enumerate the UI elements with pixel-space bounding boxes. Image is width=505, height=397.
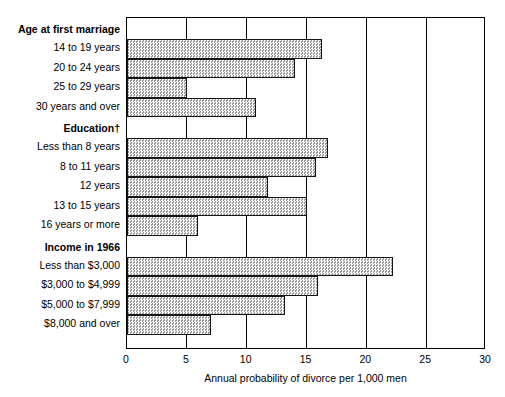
- x-axis-title: Annual probability of divorce per 1,000 …: [126, 372, 485, 384]
- category-label-0-1: 20 to 24 years: [0, 62, 120, 73]
- category-label-1-4: 16 years or more: [0, 219, 120, 230]
- bar-0-3: [127, 98, 256, 118]
- category-label-0-2: 25 to 29 years: [0, 81, 120, 92]
- divorce-probability-bar-chart: Age at first marriage14 to 19 years20 to…: [0, 0, 505, 397]
- bar-1-2: [127, 177, 268, 197]
- bar-2-0: [127, 257, 393, 277]
- bar-1-0: [127, 138, 328, 158]
- plot-area: [126, 17, 485, 349]
- category-label-2-0: Less than $3,000: [0, 260, 120, 271]
- x-tick-label-5: 5: [183, 353, 189, 365]
- category-label-0-3: 30 years and over: [0, 101, 120, 112]
- bar-2-1: [127, 276, 318, 296]
- bar-1-4: [127, 216, 198, 236]
- bar-series: [127, 18, 484, 348]
- bar-1-3: [127, 197, 307, 217]
- bar-0-1: [127, 59, 295, 79]
- bar-0-2: [127, 78, 187, 98]
- category-label-2-1: $3,000 to $4,999: [0, 279, 120, 290]
- category-label-0-0: 14 to 19 years: [0, 42, 120, 53]
- group-header-1: Education†: [0, 123, 120, 134]
- bar-1-1: [127, 158, 316, 178]
- category-label-1-2: 12 years: [0, 180, 120, 191]
- x-tick-label-20: 20: [359, 353, 371, 365]
- category-label-1-3: 13 to 15 years: [0, 200, 120, 211]
- group-header-2: Income in 1966: [0, 242, 120, 253]
- x-tick-label-10: 10: [240, 353, 252, 365]
- category-label-2-3: $8,000 and over: [0, 318, 120, 329]
- x-tick-label-0: 0: [123, 353, 129, 365]
- category-label-1-1: 8 to 11 years: [0, 161, 120, 172]
- x-tick-label-15: 15: [300, 353, 312, 365]
- bar-2-2: [127, 296, 285, 316]
- category-label-1-0: Less than 8 years: [0, 141, 120, 152]
- category-label-2-2: $5,000 to $7,999: [0, 299, 120, 310]
- category-label-column: Age at first marriage14 to 19 years20 to…: [0, 17, 120, 349]
- x-axis: 051015202530: [126, 349, 485, 373]
- bar-2-3: [127, 315, 211, 335]
- bar-0-0: [127, 39, 322, 59]
- x-tick-label-30: 30: [479, 353, 491, 365]
- x-tick-label-25: 25: [419, 353, 431, 365]
- group-header-0: Age at first marriage: [0, 24, 120, 35]
